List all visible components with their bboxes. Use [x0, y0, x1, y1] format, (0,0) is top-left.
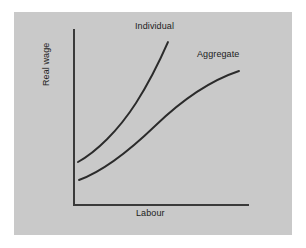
- individual-supply-curve: [78, 42, 168, 162]
- curves-group: [78, 42, 239, 180]
- aggregate-curve-label: Aggregate: [197, 49, 239, 59]
- figure-container: Individual Aggregate Labour Real wage: [0, 0, 306, 248]
- individual-curve-label: Individual: [135, 21, 174, 31]
- x-axis-label: Labour: [136, 208, 165, 218]
- aggregate-supply-curve: [79, 71, 239, 180]
- y-axis-label: Real wage: [41, 43, 51, 86]
